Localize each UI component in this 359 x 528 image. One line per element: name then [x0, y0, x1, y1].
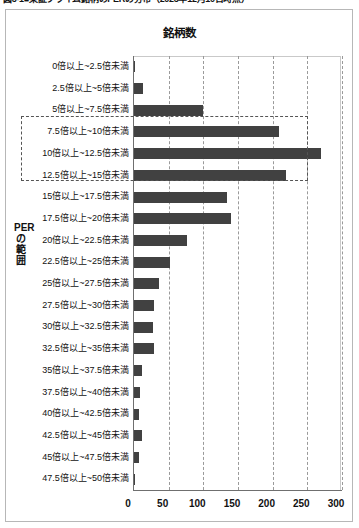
chart-row: 42.5倍以上~45倍未満 [134, 425, 342, 447]
chart-row: 40倍以上~42.5倍未満 [134, 403, 342, 425]
bar [134, 430, 142, 441]
x-axis-tick-label: 300 [328, 498, 345, 509]
bar [134, 105, 203, 116]
chart-row: 2.5倍以上~5倍未満 [134, 78, 342, 100]
bar [134, 83, 143, 94]
bar [134, 213, 231, 224]
y-axis-tick-label: 35倍以上~37.5倍未満 [42, 360, 129, 382]
y-axis-tick-label: 15倍以上~17.5倍未満 [42, 186, 129, 208]
bar [134, 278, 159, 289]
chart-row: 5倍以上~7.5倍未満 [134, 99, 342, 121]
x-axis-tick-label: 100 [189, 498, 206, 509]
chart-row: 0倍以上~2.5倍未満 [134, 56, 342, 78]
chart-row: 47.5倍以上~50倍未満 [134, 468, 342, 490]
chart-row: 32.5倍以上~35倍未満 [134, 338, 342, 360]
bar [134, 61, 135, 72]
y-axis-tick-label: 30倍以上~32.5倍未満 [42, 316, 129, 338]
bar [134, 257, 170, 268]
bar [134, 365, 142, 376]
bar [134, 387, 140, 398]
y-axis-tick-label: 45倍以上~47.5倍未満 [42, 447, 129, 469]
y-axis-tick-label: 10倍以上~12.5倍未満 [42, 143, 129, 165]
bar [134, 126, 279, 137]
chart-row: 7.5倍以上~10倍未満 [134, 121, 342, 143]
bar [134, 343, 154, 354]
figure-caption: 図3-1■東証プライム銘柄のPERの分布（2023年12月10日時点） [3, 0, 250, 4]
chart-row: 30倍以上~32.5倍未満 [134, 316, 342, 338]
y-axis-tick-label: 37.5倍以上~40倍未満 [42, 382, 129, 404]
chart-row: 35倍以上~37.5倍未満 [134, 360, 342, 382]
y-axis-tick-label: 0倍以上~2.5倍未満 [52, 56, 129, 78]
chart-row: 10倍以上~12.5倍未満 [134, 143, 342, 165]
x-axis-tick-label: 50 [157, 498, 168, 509]
y-axis-tick-label: 17.5倍以上~20倍未満 [42, 208, 129, 230]
x-axis-tick-label: 250 [293, 498, 310, 509]
y-axis-tick-label: 7.5倍以上~10倍未満 [47, 121, 129, 143]
gridline-300 [342, 56, 343, 490]
chart-row: 12.5倍以上~15倍未満 [134, 165, 342, 187]
bar [134, 322, 153, 333]
bar [134, 452, 139, 463]
y-axis-tick-label: 27.5倍以上~30倍未満 [42, 295, 129, 317]
chart-row: 22.5倍以上~25倍未満 [134, 251, 342, 273]
chart-row: 27.5倍以上~30倍未満 [134, 295, 342, 317]
bar [134, 192, 227, 203]
bar [134, 474, 135, 485]
y-axis-tick-label: 32.5倍以上~35倍未満 [42, 338, 129, 360]
plot-area: 0倍以上~2.5倍未満2.5倍以上~5倍未満5倍以上~7.5倍未満7.5倍以上~… [133, 56, 342, 491]
chart-title: 銘柄数 [6, 24, 352, 40]
chart-row: 20倍以上~22.5倍未満 [134, 230, 342, 252]
y-axis-tick-label: 25倍以上~27.5倍未満 [42, 273, 129, 295]
chart-row: 17.5倍以上~20倍未満 [134, 208, 342, 230]
chart-row: 25倍以上~27.5倍未満 [134, 273, 342, 295]
x-axis-tick-label: 150 [224, 498, 241, 509]
y-axis-tick-label: 20倍以上~22.5倍未満 [42, 230, 129, 252]
y-axis-title: PERの範囲 [14, 222, 27, 266]
y-axis-tick-label: 12.5倍以上~15倍未満 [42, 165, 129, 187]
bar [134, 170, 286, 181]
y-axis-tick-label: 22.5倍以上~25倍未満 [42, 251, 129, 273]
chart-frame: 銘柄数 PERの範囲 0倍以上~2.5倍未満2.5倍以上~5倍未満5倍以上~7.… [5, 9, 353, 522]
chart-row: 15倍以上~17.5倍未満 [134, 186, 342, 208]
y-axis-tick-label: 5倍以上~7.5倍未満 [52, 99, 129, 121]
y-axis-tick-label: 47.5倍以上~50倍未満 [42, 468, 129, 490]
bar [134, 148, 321, 159]
bar [134, 235, 187, 246]
y-axis-tick-label: 40倍以上~42.5倍未満 [42, 403, 129, 425]
y-axis-tick-label: 42.5倍以上~45倍未満 [42, 425, 129, 447]
bar [134, 409, 139, 420]
chart-row: 45倍以上~47.5倍未満 [134, 447, 342, 469]
x-axis-tick-label: 200 [258, 498, 275, 509]
x-axis-tick-label: 0 [125, 498, 131, 509]
chart-row: 37.5倍以上~40倍未満 [134, 382, 342, 404]
y-axis-tick-label: 2.5倍以上~5倍未満 [52, 78, 129, 100]
bar [134, 300, 154, 311]
